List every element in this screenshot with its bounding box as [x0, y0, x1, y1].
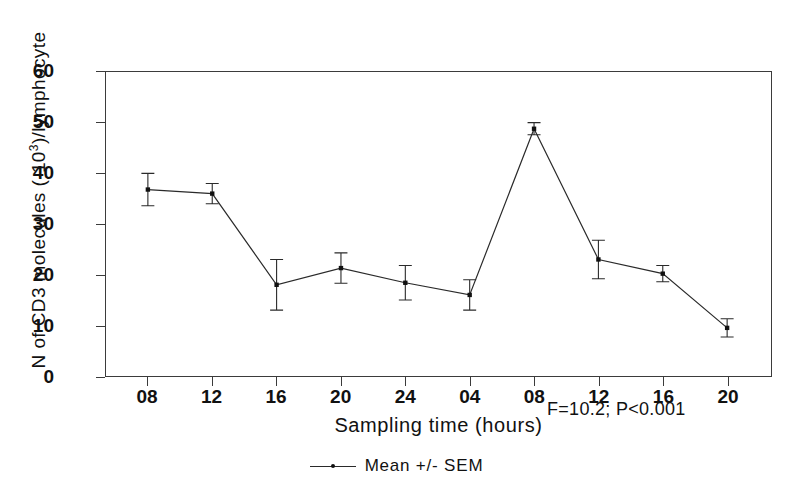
x-axis-title: Sampling time (hours): [105, 414, 772, 437]
x-tick-mark: [663, 377, 664, 386]
data-point-marker: [596, 257, 600, 261]
y-tick-label: 60: [14, 60, 54, 82]
data-point-marker: [532, 127, 536, 131]
data-point-marker: [274, 283, 278, 287]
legend-label: Mean +/- SEM: [365, 456, 484, 476]
series-mean-sem: [141, 123, 733, 337]
x-tick-label: 04: [447, 386, 493, 408]
y-tick-mark: [96, 173, 105, 174]
series-line: [148, 129, 727, 328]
x-tick-mark: [470, 377, 471, 386]
y-tick-label: 0: [14, 366, 54, 388]
y-tick-label: 10: [14, 315, 54, 337]
x-tick-label: 16: [253, 386, 299, 408]
x-tick-mark: [276, 377, 277, 386]
y-tick-mark: [96, 122, 105, 123]
y-tick-mark: [96, 275, 105, 276]
data-point-marker: [725, 326, 729, 330]
x-tick-label: 20: [318, 386, 364, 408]
x-tick-mark: [534, 377, 535, 386]
x-tick-mark: [728, 377, 729, 386]
data-point-marker: [661, 271, 665, 275]
x-tick-label: 24: [382, 386, 428, 408]
y-tick-mark: [96, 71, 105, 72]
x-tick-label: 08: [124, 386, 170, 408]
figure-canvas: N of CD3 molecules (·103)/lymphocyte 010…: [0, 0, 793, 500]
x-tick-mark: [212, 377, 213, 386]
x-tick-mark: [599, 377, 600, 386]
y-tick-label: 30: [14, 213, 54, 235]
x-tick-mark: [405, 377, 406, 386]
x-tick-mark: [341, 377, 342, 386]
x-tick-mark: [147, 377, 148, 386]
data-point-marker: [403, 281, 407, 285]
data-point-marker: [210, 191, 214, 195]
data-point-marker: [146, 187, 150, 191]
chart-legend: Mean +/- SEM: [0, 456, 793, 476]
y-tick-label: 40: [14, 162, 54, 184]
y-tick-mark: [96, 326, 105, 327]
series-layer: [106, 72, 771, 376]
y-tick-label: 50: [14, 111, 54, 133]
y-axis-title-exponent: 3: [27, 144, 41, 151]
x-tick-label: 20: [705, 386, 751, 408]
legend-dot: [331, 464, 335, 468]
data-point-marker: [467, 293, 471, 297]
y-tick-mark: [96, 224, 105, 225]
legend-line-marker-icon: [310, 461, 356, 471]
x-tick-label: 12: [189, 386, 235, 408]
y-tick-mark: [96, 377, 105, 378]
y-tick-label: 20: [14, 264, 54, 286]
plot-area: F=10.2; P<0.001: [105, 71, 772, 377]
data-point-marker: [339, 266, 343, 270]
